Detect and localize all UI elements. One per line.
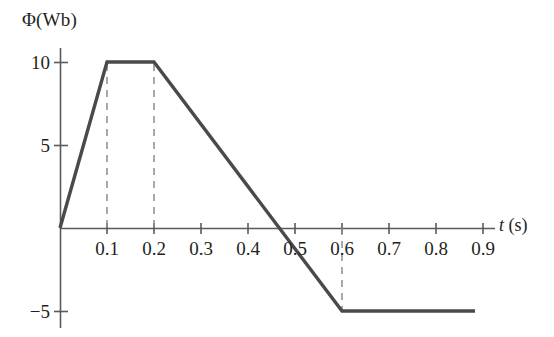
y-tick-label-10: 10 bbox=[2, 53, 50, 72]
x-axis-title: t (s) bbox=[499, 216, 528, 234]
flux-vs-time-chart: Φ(Wb) t (s) 10 5 −5 0.1 0.2 0.3 0.4 0.5 … bbox=[0, 0, 554, 337]
x-tick-label-0.5: 0.5 bbox=[271, 239, 319, 258]
x-tick-label-0.6: 0.6 bbox=[318, 239, 366, 258]
x-tick-label-0.4: 0.4 bbox=[224, 239, 272, 258]
y-axis-title: Φ(Wb) bbox=[22, 10, 77, 29]
x-tick-label-0.3: 0.3 bbox=[177, 239, 225, 258]
guide-lines bbox=[107, 64, 342, 310]
x-axis-title-variable: t bbox=[499, 215, 504, 235]
chart-canvas bbox=[0, 0, 554, 337]
x-tick-label-0.7: 0.7 bbox=[365, 239, 413, 258]
flux-curve bbox=[60, 62, 475, 311]
x-tick-label-0.1: 0.1 bbox=[83, 239, 131, 258]
x-axis-title-unit: (s) bbox=[509, 215, 528, 235]
y-tick-label-minus-5: −5 bbox=[2, 302, 50, 321]
y-tick-label-5: 5 bbox=[2, 136, 50, 155]
x-tick-label-0.8: 0.8 bbox=[412, 239, 460, 258]
x-tick-label-0.2: 0.2 bbox=[130, 239, 178, 258]
x-tick-label-0.9: 0.9 bbox=[459, 239, 507, 258]
